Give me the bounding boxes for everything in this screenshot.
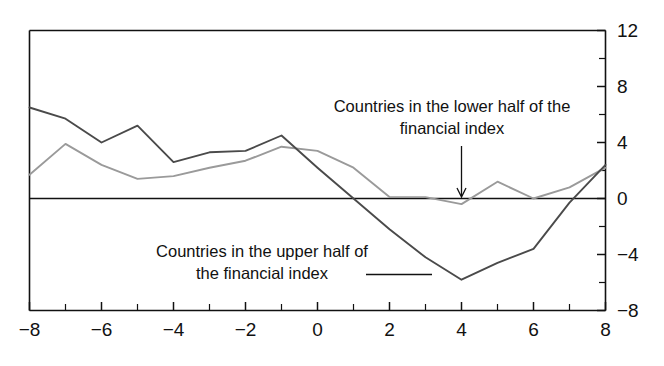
lower-half-annotation: Countries in the lower half of the finan… — [334, 97, 571, 197]
x-label-minus8: −8 — [19, 319, 41, 340]
y-axis-labels: 12 8 4 0 −4 −8 — [617, 20, 639, 321]
y-label-12: 12 — [617, 20, 638, 41]
x-label-8: 8 — [600, 319, 611, 340]
chart-figure: 12 8 4 0 −4 −8 — [0, 0, 664, 366]
x-label-minus6: −6 — [91, 319, 113, 340]
x-label-minus4: −4 — [163, 319, 185, 340]
upper-half-annotation: Countries in the upper half of the finan… — [156, 242, 432, 282]
upper-half-annotation-line1: Countries in the upper half of — [156, 242, 368, 260]
x-label-2: 2 — [384, 319, 395, 340]
x-label-minus2: −2 — [235, 319, 257, 340]
y-label-0: 0 — [617, 188, 628, 209]
x-axis-labels: −8 −6 −4 −2 0 2 4 6 8 — [19, 319, 611, 340]
y-label-4: 4 — [617, 132, 628, 153]
lower-half-annotation-line2: financial index — [400, 119, 505, 137]
x-label-6: 6 — [528, 319, 539, 340]
line-chart-canvas: 12 8 4 0 −4 −8 — [0, 0, 664, 366]
lower-half-annotation-line1: Countries in the lower half of the — [334, 97, 571, 115]
x-axis-ticks — [30, 302, 606, 311]
y-label-minus8: −8 — [617, 300, 639, 321]
upper-half-annotation-line2: the financial index — [196, 264, 329, 282]
x-label-4: 4 — [456, 319, 467, 340]
y-label-minus4: −4 — [617, 244, 639, 265]
series-line-lower-half — [30, 144, 606, 204]
y-label-8: 8 — [617, 76, 628, 97]
x-label-0: 0 — [312, 319, 323, 340]
